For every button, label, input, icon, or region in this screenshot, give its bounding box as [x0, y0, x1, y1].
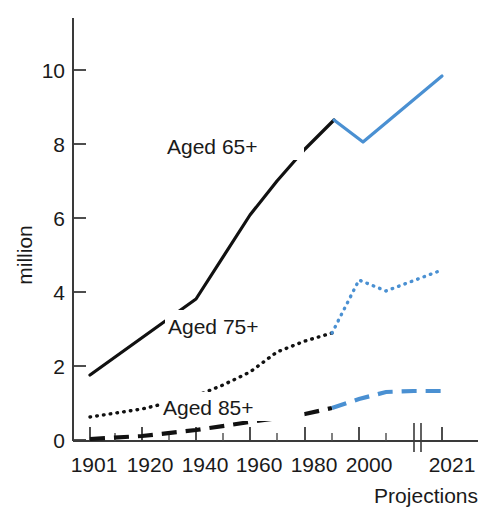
y-tick-label-10: 10 — [42, 59, 65, 82]
chart-container: 10 8 6 4 2 0 million — [0, 0, 492, 526]
x-tick-label-1960: 1960 — [236, 453, 283, 476]
y-axis-tick-labels: 10 8 6 4 2 0 — [42, 59, 66, 452]
axes-group — [73, 18, 478, 441]
y-axis-ticks — [73, 70, 86, 440]
x-axis-tick-labels: 1901 1920 1940 1960 1980 2000 2021 — [71, 453, 476, 476]
x-tick-label-1980: 1980 — [291, 453, 338, 476]
x-axis-break-marker — [414, 423, 421, 452]
series-label-aged-65-plus: Aged 65+ — [167, 135, 258, 158]
y-tick-label-4: 4 — [53, 281, 65, 304]
y-tick-label-0: 0 — [53, 429, 65, 452]
y-tick-label-2: 2 — [53, 355, 65, 378]
x-tick-label-1901: 1901 — [71, 453, 118, 476]
series-label-aged-85-plus: Aged 85+ — [163, 396, 254, 419]
series-aged-65-plus-projection-path — [334, 76, 442, 142]
population-projection-line-chart: 10 8 6 4 2 0 million — [0, 0, 492, 526]
series-label-aged-75-plus: Aged 75+ — [168, 315, 259, 338]
x-tick-label-1940: 1940 — [182, 453, 229, 476]
x-tick-label-2021: 2021 — [429, 453, 476, 476]
projections-note: Projections — [374, 484, 478, 507]
x-tick-label-1920: 1920 — [127, 453, 174, 476]
series-aged-85-plus-projection-path — [332, 391, 442, 408]
x-tick-label-2000: 2000 — [346, 453, 393, 476]
series-aged-75-plus-projection-path — [332, 270, 442, 333]
y-tick-label-8: 8 — [53, 133, 65, 156]
y-tick-label-6: 6 — [53, 207, 65, 230]
y-axis-title: million — [13, 225, 36, 285]
